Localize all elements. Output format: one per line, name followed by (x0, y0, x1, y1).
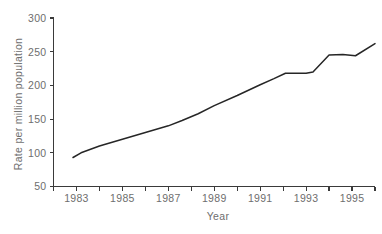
y-tick-label: 200 (28, 79, 46, 91)
y-tick-label: 100 (28, 147, 46, 159)
x-tick-label: 1993 (294, 192, 319, 204)
x-tick-label: 1985 (110, 192, 135, 204)
x-tick-label: 1995 (340, 192, 365, 204)
y-tick-label: 300 (28, 12, 46, 24)
y-axis-title-text: Rate per million population (12, 38, 24, 170)
y-tick-label: 50 (34, 180, 46, 192)
x-axis-title: Year (207, 210, 230, 222)
x-tick-group: 1983198519871989199119931995 (54, 187, 376, 204)
x-tick-label: 1987 (156, 192, 181, 204)
x-tick-label: 1983 (64, 192, 89, 204)
y-axis-title: Rate per million population (12, 38, 24, 170)
y-tick-label: 150 (28, 113, 46, 125)
series-group (73, 44, 375, 158)
x-axis-title-text: Year (207, 210, 230, 222)
y-tick-label: 250 (28, 46, 46, 58)
chart-figure: Rate per million population Year 5010015… (0, 0, 382, 234)
x-axis: 1983198519871989199119931995 (53, 187, 375, 204)
series-line-rate-per-million-population (73, 44, 375, 158)
x-tick-label: 1989 (202, 192, 227, 204)
y-axis: 50100150200250300 (28, 12, 53, 193)
y-tick-group: 50100150200250300 (28, 12, 53, 193)
x-tick-label: 1991 (248, 192, 273, 204)
line-chart-svg: Rate per million population Year 5010015… (0, 0, 382, 234)
